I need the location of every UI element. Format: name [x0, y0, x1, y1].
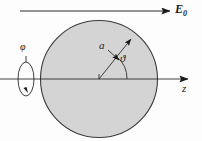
polar-angle-label: ϑ — [120, 53, 125, 64]
physics-diagram-sphere-in-field: E0 z a ϑ φ — [0, 0, 202, 141]
azimuth-loop-arrowhead — [24, 87, 29, 93]
radius-label: a — [99, 40, 105, 51]
field-label: E0 — [175, 3, 187, 18]
azimuthal-angle-label: φ — [20, 42, 26, 52]
diagram-canvas — [0, 0, 202, 141]
z-axis-label: z — [182, 83, 186, 94]
